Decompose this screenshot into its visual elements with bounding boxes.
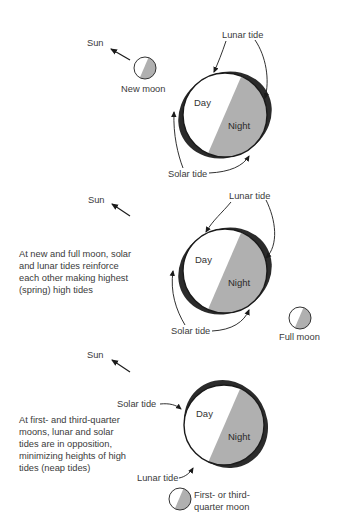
solar-tide-label: Solar tide [117,399,156,409]
panel-new-moon: Sun New moon Day Night Lunar tide Solar … [87,30,287,179]
lunar-tide-label: Lunar tide [137,473,178,483]
night-label: Night [228,277,251,288]
sun-label: Sun [88,195,105,205]
panel-quarter-moon: Sun At first- and third-quarter moons, l… [19,350,284,513]
lunar-tide-arrow-icon [179,468,193,478]
caption-spring-tides: At new and full moon, solar and lunar ti… [19,249,134,295]
tides-diagram: Sun New moon Day Night Lunar tide Solar … [0,0,341,525]
day-label: Day [196,408,213,419]
earth-icon [184,382,272,472]
sun-label: Sun [87,38,104,48]
new-moon-icon [134,54,160,82]
sun-direction-arrow-icon [111,49,130,60]
lunar-tide-label: Lunar tide [229,191,270,201]
sun-direction-arrow-icon [112,360,130,372]
caption-neap-tides: At first- and third-quarter moons, lunar… [19,415,129,473]
night-label: Night [228,431,251,442]
sun-direction-arrow-icon [112,204,130,216]
lunar-tide-label: Lunar tide [222,30,263,40]
solar-tide-arrow-icon [209,156,249,173]
quarter-moon-icon [169,485,195,513]
solar-tide-label: Solar tide [171,326,210,336]
lunar-tide-arrow-icon [214,41,226,72]
day-label: Day [195,254,212,265]
night-label: Night [228,120,251,131]
moon-label: New moon [121,84,165,94]
day-label: Day [194,97,211,108]
moon-label: First- or third- quarter moon [194,490,252,512]
moon-label: Full moon [279,332,320,342]
full-moon-icon [289,304,315,332]
sun-label: Sun [87,350,104,360]
panel-full-moon: Sun At new and full moon, solar and luna… [19,191,320,342]
solar-tide-label: Solar tide [168,169,207,179]
lunar-tide-arrow-icon [206,202,231,232]
solar-tide-arrow-icon [160,404,181,409]
